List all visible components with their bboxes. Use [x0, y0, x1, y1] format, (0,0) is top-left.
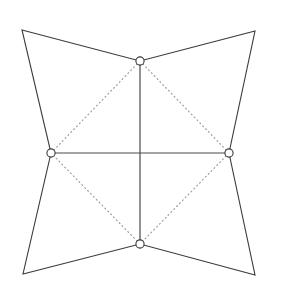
- geometry-figure: [0, 0, 290, 288]
- node-marker-bottom[interactable]: [136, 240, 144, 248]
- dotted-edge-bottom-right: [140, 153, 229, 244]
- node-marker-left[interactable]: [47, 149, 55, 157]
- node-marker-right[interactable]: [225, 149, 233, 157]
- dotted-edge-top-right: [140, 61, 229, 153]
- dotted-edge-bottom-left: [51, 153, 140, 244]
- node-marker-top[interactable]: [136, 57, 144, 65]
- dotted-edge-top-left: [51, 61, 140, 153]
- axis-cross-group: [51, 61, 229, 244]
- diagram-canvas: [0, 0, 290, 288]
